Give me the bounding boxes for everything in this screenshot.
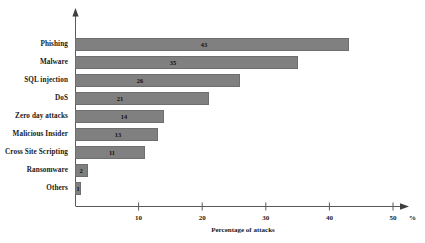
category-label: Malware [0,56,68,69]
bars-layer: Phishing 43 Malware 35 SQL injection 26 … [0,0,425,243]
bar-value-label: 26 [128,74,152,87]
x-tick-label: 10 [129,214,149,222]
bar-value-label: 21 [108,92,132,105]
bar-value-label: 1 [66,182,90,195]
x-tick-label: 40 [319,214,339,222]
bar-value-label: 43 [192,38,216,51]
table-row: Others 1 [0,182,425,195]
category-label: Phishing [0,38,68,51]
category-label: Ransomware [0,164,68,177]
table-row: DoS 21 [0,92,425,105]
x-tick-label: 20 [192,214,212,222]
bar [75,92,209,105]
table-row: Malware 35 [0,56,425,69]
bar [75,56,298,69]
bar [75,74,240,87]
x-tick-label: 30 [256,214,276,222]
category-label: SQL injection [0,74,68,87]
bar-value-label: 11 [100,146,124,159]
category-label: Cross Site Scripting [0,146,68,159]
table-row: Zero day attacks 14 [0,110,425,123]
table-row: Phishing 43 [0,38,425,51]
bar-value-label: 14 [112,110,136,123]
table-row: SQL injection 26 [0,74,425,87]
table-row: Malicious Insider 13 [0,128,425,141]
category-label: DoS [0,92,68,105]
bar-chart: Phishing 43 Malware 35 SQL injection 26 … [0,0,425,243]
x-tick-label: 50 [383,214,403,222]
bar-value-label: 2 [69,164,93,177]
table-row: Cross Site Scripting 11 [0,146,425,159]
x-axis-unit-label: % [409,214,416,222]
x-axis-title: Percentage of attacks [153,226,333,234]
bar-value-label: 35 [161,56,185,69]
bar-value-label: 13 [106,128,130,141]
category-label: Others [0,182,68,195]
table-row: Ransomware 2 [0,164,425,177]
category-label: Malicious Insider [0,128,68,141]
category-label: Zero day attacks [0,110,68,123]
